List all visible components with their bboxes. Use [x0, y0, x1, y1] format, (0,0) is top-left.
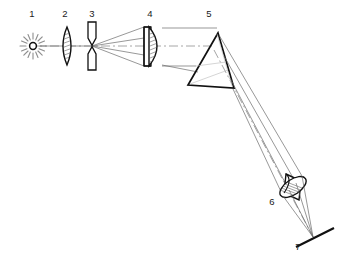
condenser-lens	[56, 27, 78, 70]
label-5: 5	[206, 8, 211, 19]
dispersing-prism	[188, 33, 234, 88]
ray-dispersed-upper	[219, 35, 302, 176]
label-1: 1	[29, 8, 34, 19]
ray-converging-lower	[283, 196, 313, 237]
label-6: 6	[269, 196, 274, 207]
slit-upper-jaw	[88, 22, 96, 45]
ray-lower-diverging	[92, 46, 144, 66]
detector-screen	[296, 228, 334, 247]
optical-ray-diagram: 1 2 3 4 5 6 7	[0, 0, 347, 255]
label-7: 7	[295, 241, 300, 252]
ray-inner-lower-diverging	[92, 46, 144, 55]
source-bulb	[30, 43, 37, 50]
slit-lower-jaw	[88, 47, 96, 70]
screen-surface	[296, 228, 334, 247]
optical-axis-dispersed	[214, 50, 313, 237]
label-2: 2	[62, 8, 67, 19]
ray-dispersed-mid-a	[224, 56, 296, 183]
diagram-canvas: 1 2 3 4 5 6 7	[0, 0, 347, 255]
collimating-lens	[140, 26, 170, 78]
prism-body	[188, 33, 234, 88]
optical-axis	[33, 46, 313, 237]
light-source	[20, 33, 46, 59]
ray-upper-diverging	[92, 27, 144, 46]
ray-converging-mid-b	[289, 190, 313, 237]
ray-inner-upper-diverging	[92, 38, 144, 46]
label-3: 3	[89, 8, 94, 19]
ray-dispersed-mid-b	[230, 78, 289, 190]
ray-dispersed-lower	[233, 89, 283, 196]
ray-bundle-dispersed	[219, 35, 302, 196]
label-4: 4	[147, 8, 152, 19]
